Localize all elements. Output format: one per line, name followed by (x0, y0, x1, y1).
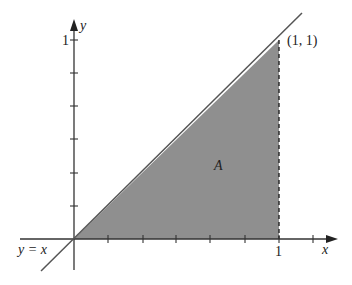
y-axis-arrow-icon (70, 19, 78, 31)
y-axis-label: y (78, 18, 87, 33)
line-label: y = x (16, 242, 48, 257)
region-label: A (213, 158, 223, 173)
diagram-canvas: y 1 (1, 1) A 1 x y = x (0, 0, 352, 285)
point-label: (1, 1) (287, 33, 318, 49)
x-tick-label-1: 1 (275, 244, 282, 259)
region-a (74, 40, 279, 239)
x-axis-label: x (321, 242, 329, 257)
y-tick-label-1: 1 (62, 33, 69, 48)
